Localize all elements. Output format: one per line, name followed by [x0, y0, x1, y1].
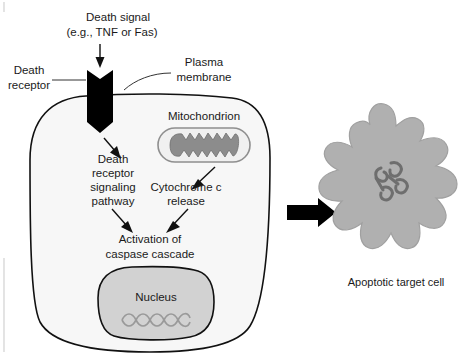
death-receptor-label-line1: Death	[14, 64, 45, 76]
death-signal-label-line1: Death signal	[86, 11, 150, 23]
nucleus-shape	[98, 267, 214, 340]
apoptosis-diagram-figure: Death signal (e.g., TNF or Fas) Death re…	[0, 0, 476, 363]
plasma-membrane-label-line1: Plasma	[185, 56, 224, 68]
nucleus-label: Nucleus	[135, 291, 177, 303]
pathway-label-line1: Death	[98, 153, 129, 165]
caspase-label-line2: caspase cascade	[106, 248, 195, 260]
plasma-membrane-leader	[124, 73, 171, 90]
death-receptor-icon	[87, 70, 113, 133]
mitochondrion-shape	[158, 128, 250, 162]
death-signal-label-line2: (e.g., TNF or Fas)	[66, 26, 157, 38]
transition-arrow-icon	[287, 198, 336, 227]
pathway-label-line2: receptor	[92, 167, 134, 179]
cytochrome-label-line2: release	[167, 195, 205, 207]
death-signal-arrow	[96, 44, 105, 68]
diagram-canvas: Death signal (e.g., TNF or Fas) Death re…	[0, 0, 476, 363]
apoptotic-cell-shape	[319, 104, 457, 249]
caspase-label-line1: Activation of	[119, 233, 182, 245]
cytochrome-label-line1: Cytochrome c	[151, 181, 222, 193]
apoptotic-cell-caption: Apoptotic target cell	[348, 276, 445, 288]
mitochondrion-label: Mitochondrion	[168, 110, 240, 122]
pathway-label-line3: signaling	[90, 181, 135, 193]
plasma-membrane-label-line2: membrane	[177, 71, 232, 83]
pathway-label-line4: pathway	[92, 195, 135, 207]
death-receptor-label-line2: receptor	[8, 79, 50, 91]
